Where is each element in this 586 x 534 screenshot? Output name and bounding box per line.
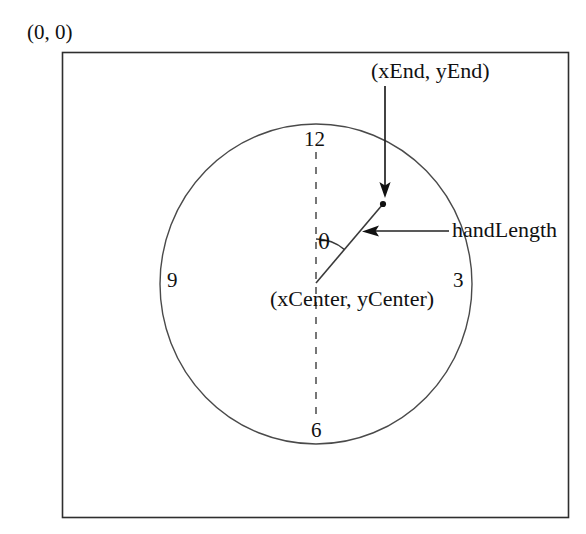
origin-coordinate-label: (0, 0) <box>27 22 73 43</box>
diagram-canvas: (0, 0) (xEnd, yEnd) handLength (xCenter,… <box>0 0 586 534</box>
clock-hour-9-label: 9 <box>167 270 178 291</box>
theta-angle-label: θ <box>318 232 330 252</box>
hand-length-label: handLength <box>452 219 557 241</box>
end-point-dot <box>380 201 386 207</box>
end-point-label: (xEnd, yEnd) <box>371 60 490 82</box>
clock-hour-3-label: 3 <box>453 270 464 291</box>
clock-hour-6-label: 6 <box>311 420 322 441</box>
clock-hand-diagram-svg <box>0 0 586 534</box>
clock-hour-12-label: 12 <box>304 129 325 150</box>
center-point-label: (xCenter, yCenter) <box>270 288 434 310</box>
outer-panel-rect <box>63 53 569 518</box>
